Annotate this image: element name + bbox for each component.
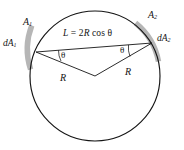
label-area-a2: A2 [148,10,157,20]
label-d-area-a1: dA1 [3,39,17,49]
label-d-area-a2-text: dA [157,33,168,43]
label-area-a1: A1 [23,17,32,27]
label-d-area-a2: dA2 [157,34,171,44]
label-area-a1-sub: 1 [29,20,32,27]
label-angle-theta-right: θ [120,46,124,55]
label-area-a2-sub: 2 [154,13,157,20]
label-angle-theta-left: θ [61,51,65,60]
formula-equals: = [68,28,78,38]
label-d-area-a2-sub: 2 [168,37,171,43]
formula-function: cos [90,28,108,38]
label-d-area-a1-sub: 1 [14,42,17,48]
geometry-figure: A1 dA1 A2 dA2 L = 2R cos θ θ θ R R [0,0,184,150]
label-chord-formula: L = 2R cos θ [63,29,112,39]
chord-line-L [36,43,152,52]
label-radius-right: R [125,67,131,77]
formula-angle: θ [108,28,113,38]
label-d-area-a1-text: dA [3,38,14,48]
angle-arc-right [128,45,130,57]
label-radius-left: R [60,73,66,83]
